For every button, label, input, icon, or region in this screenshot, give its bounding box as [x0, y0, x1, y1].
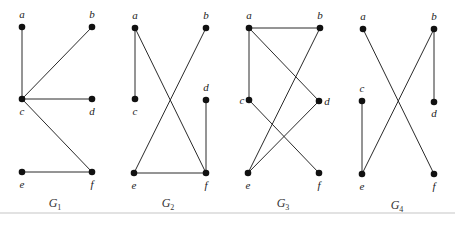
vertex-label-b: b [89, 8, 95, 20]
vertex-e [359, 171, 366, 178]
vertex-label-d: d [324, 95, 330, 107]
vertex-a [132, 25, 139, 32]
vertex-a [19, 24, 26, 31]
vertex-d [316, 98, 323, 105]
graph-caption: G4 [391, 198, 404, 214]
vertex-b [431, 26, 438, 33]
vertex-label-b: b [203, 9, 209, 21]
vertex-label-c: c [133, 105, 138, 117]
vertex-d [89, 96, 96, 103]
graph-g2: abcdefG2 [131, 9, 210, 212]
vertex-f [203, 170, 210, 177]
vertex-label-f: f [317, 179, 322, 191]
graph-caption: G1 [49, 196, 62, 212]
vertex-e [131, 170, 138, 177]
vertex-label-a: a [360, 10, 366, 22]
vertex-f [431, 171, 438, 178]
vertex-label-e: e [246, 179, 251, 191]
vertex-c [359, 98, 366, 105]
graph-caption: G2 [162, 196, 175, 212]
edge-b-c [22, 27, 92, 99]
vertex-label-a: a [246, 9, 252, 21]
vertex-d [203, 97, 210, 104]
vertex-f [316, 170, 323, 177]
vertex-label-d: d [89, 105, 95, 117]
edge-a-d [249, 28, 319, 101]
graph-g1: abcdefG1 [19, 8, 96, 212]
vertex-label-e: e [20, 178, 25, 190]
vertex-label-d: d [203, 81, 209, 93]
vertex-d [431, 99, 438, 106]
vertex-f [89, 169, 96, 176]
graph-figure: abcdefG1abcdefG2abcdefG3abcdefG4 [0, 0, 455, 225]
vertex-label-e: e [132, 179, 137, 191]
vertex-b [317, 25, 324, 32]
vertex-label-a: a [19, 8, 25, 20]
graphs-container: abcdefG1abcdefG2abcdefG3abcdefG4 [19, 8, 438, 214]
vertex-label-d: d [431, 107, 437, 119]
vertex-label-a: a [132, 9, 138, 21]
vertex-label-c: c [240, 94, 245, 106]
vertex-c [19, 96, 26, 103]
vertex-b [203, 25, 210, 32]
vertex-label-c: c [360, 82, 365, 94]
edge-c-f [22, 99, 92, 172]
graph-g4: abcdefG4 [359, 10, 438, 214]
vertex-a [360, 26, 367, 33]
vertex-label-f: f [204, 179, 209, 191]
graph-g3: abcdefG3 [240, 9, 331, 212]
vertex-label-c: c [20, 105, 25, 117]
vertex-label-b: b [431, 10, 437, 22]
vertex-c [246, 97, 253, 104]
vertex-c [132, 96, 139, 103]
vertex-e [245, 170, 252, 177]
vertex-label-e: e [360, 180, 365, 192]
vertex-label-b: b [317, 9, 323, 21]
edge-b-e [248, 28, 320, 173]
graph-caption: G3 [277, 196, 290, 212]
vertex-label-f: f [432, 180, 437, 192]
vertex-label-f: f [90, 178, 95, 190]
vertex-b [89, 24, 96, 31]
vertex-a [246, 25, 253, 32]
vertex-e [19, 169, 26, 176]
